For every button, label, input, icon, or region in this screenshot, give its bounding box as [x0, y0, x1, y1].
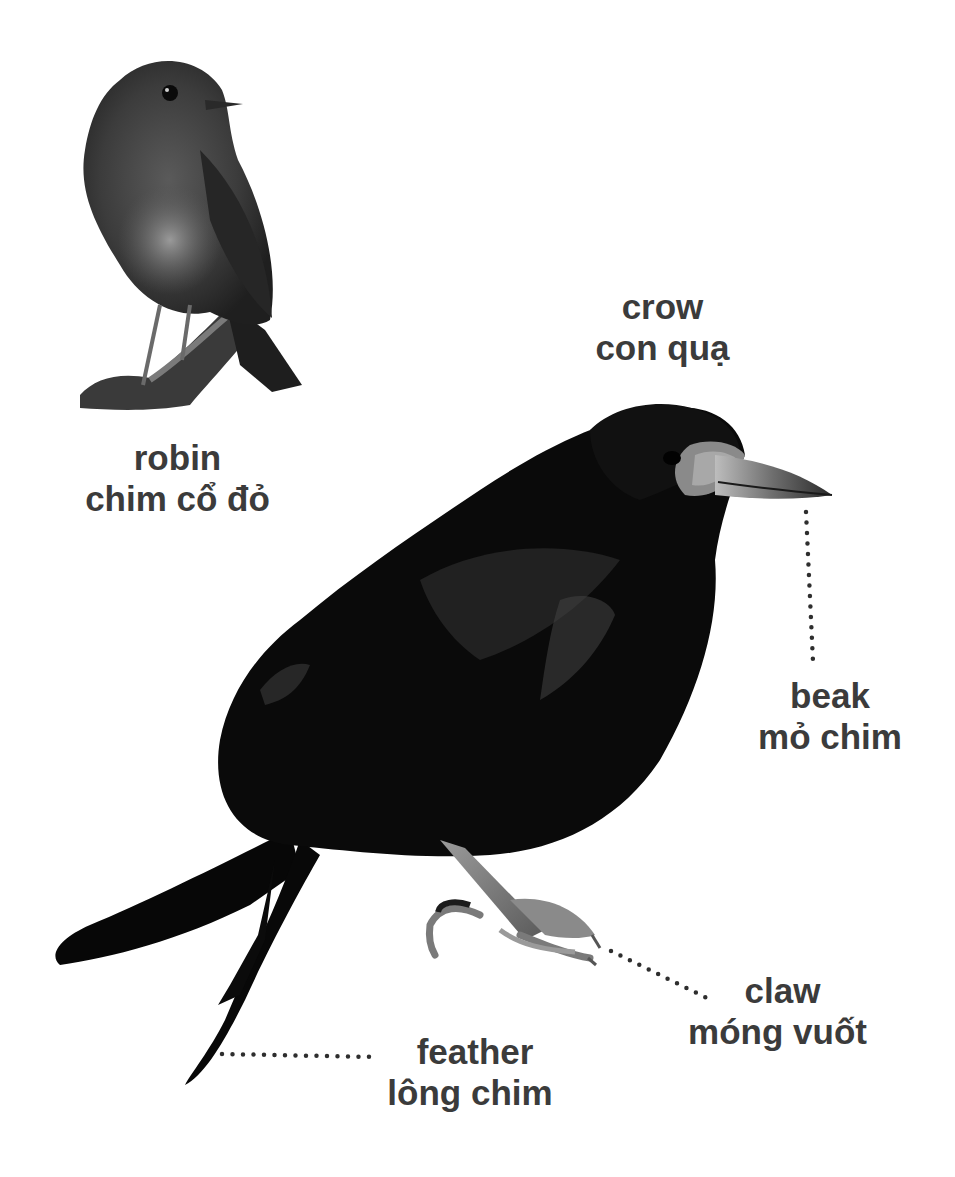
robin-photo: [80, 61, 302, 410]
feather-label: feather lông chim: [365, 1031, 575, 1113]
feather-leader-line: [222, 1054, 376, 1057]
robin-label: robin chim cổ đỏ: [60, 437, 295, 519]
claw-label-en: claw: [670, 970, 885, 1011]
beak-label-en: beak: [735, 675, 925, 716]
crow-leg: [440, 840, 545, 940]
crow-label-en: crow: [575, 286, 750, 327]
feather-label-vi: lông chim: [365, 1072, 575, 1113]
crow-eye: [663, 451, 681, 465]
claw-label-vi: móng vuốt: [670, 1011, 885, 1052]
beak-label: beak mỏ chim: [735, 675, 925, 757]
beak-leader-line: [806, 512, 813, 662]
claw-label: claw móng vuốt: [670, 970, 885, 1052]
crow-label: crow con quạ: [575, 286, 750, 368]
feather-label-en: feather: [365, 1031, 575, 1072]
robin-label-en: robin: [60, 437, 295, 478]
robin-eye: [162, 85, 178, 101]
robin-label-vi: chim cổ đỏ: [60, 478, 295, 519]
crow-beak: [715, 455, 832, 499]
beak-label-vi: mỏ chim: [735, 716, 925, 757]
crow-label-vi: con quạ: [575, 327, 750, 368]
